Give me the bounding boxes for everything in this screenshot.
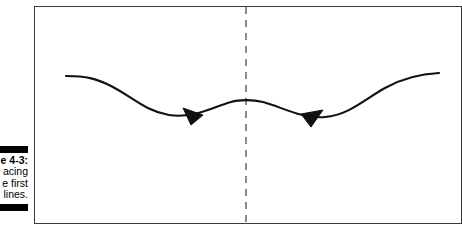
wavy-guide-curve [66,73,439,117]
figure-frame [34,6,462,224]
caption-rule-bottom [0,204,28,211]
caption-rule-top [0,146,28,153]
right-direction-arrowhead [301,110,323,127]
figure-caption-text: e 4-3: acing e first lines. [0,153,28,202]
figure-caption-block: e 4-3: acing e first lines. [0,146,28,211]
figure-illustration [35,7,461,223]
figure-page: e 4-3: acing e first lines. [0,0,462,231]
left-direction-arrowhead [183,108,203,125]
caption-line-4: lines. [0,189,28,200]
